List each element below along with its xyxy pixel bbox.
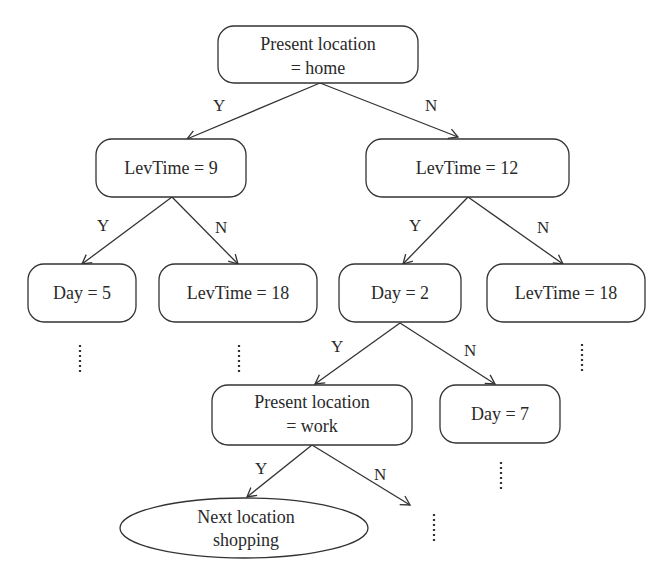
- edge-day2-no: [400, 323, 495, 384]
- edge-label-levtime12-no: N: [537, 218, 549, 237]
- node-label: Day = 5: [53, 283, 111, 303]
- edge-label-root-yes: Y: [213, 96, 225, 115]
- edge-label-root-no: N: [425, 96, 437, 115]
- leaf-label-line1: Next location: [197, 507, 294, 527]
- edge-label-levtime9-yes: Y: [97, 216, 109, 235]
- node-root: Present location = home: [218, 26, 418, 83]
- node-levtime-18-right: LevTime = 18: [487, 264, 645, 322]
- node-label-line2: = home: [291, 58, 346, 78]
- node-label: Day = 7: [471, 404, 529, 424]
- node-label: LevTime = 9: [124, 158, 218, 178]
- node-levtime-18-left: LevTime = 18: [159, 264, 317, 322]
- node-label: LevTime = 18: [187, 283, 290, 303]
- leaf-label-line2: shopping: [213, 530, 279, 550]
- node-present-location-work: Present location = work: [212, 385, 412, 445]
- node-day-2: Day = 2: [339, 264, 461, 322]
- node-label-line2: = work: [286, 416, 338, 436]
- decision-tree-diagram: Y N Y N Y N Y N Y N Present location = h…: [0, 0, 669, 584]
- node-label: Day = 2: [371, 283, 429, 303]
- node-label-line1: Present location: [254, 392, 369, 412]
- edge-root-yes: [187, 83, 320, 139]
- node-label-line1: Present location: [260, 34, 375, 54]
- edge-levtime9-no: [172, 197, 238, 264]
- edge-label-levtime12-yes: Y: [409, 216, 421, 235]
- node-label: LevTime = 18: [515, 283, 618, 303]
- edge-label-day2-no: N: [464, 341, 476, 360]
- node-label: LevTime = 12: [416, 158, 519, 178]
- node-day-7: Day = 7: [440, 385, 560, 443]
- edge-label-work-no: N: [374, 465, 386, 484]
- edge-day2-yes: [315, 323, 400, 384]
- edge-work-no: [312, 445, 410, 505]
- edge-label-work-yes: Y: [255, 459, 267, 478]
- node-levtime-12: LevTime = 12: [366, 139, 569, 197]
- node-day-5: Day = 5: [28, 264, 136, 322]
- edge-levtime9-yes: [82, 197, 172, 264]
- edge-root-no: [320, 83, 458, 137]
- edge-label-levtime9-no: N: [215, 218, 227, 237]
- edge-label-day2-yes: Y: [331, 337, 343, 356]
- leaf-next-location-shopping: Next location shopping: [120, 498, 368, 558]
- node-levtime-9: LevTime = 9: [96, 139, 246, 197]
